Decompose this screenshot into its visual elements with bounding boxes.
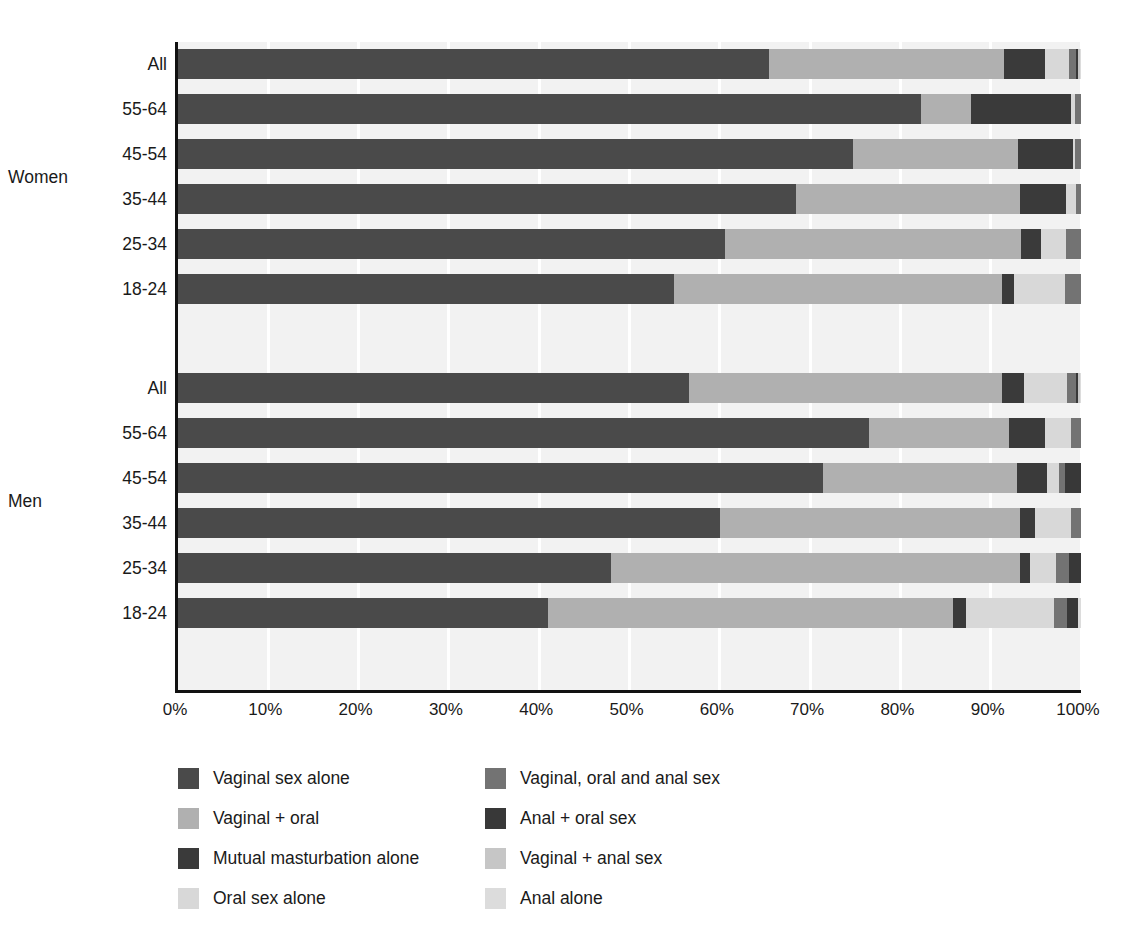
bar-segment[interactable] (548, 598, 953, 628)
x-tick-label: 20% (339, 700, 373, 720)
legend-item[interactable]: Vaginal + oral (178, 798, 508, 838)
bar-segment[interactable] (689, 373, 1002, 403)
bar-row[interactable] (178, 598, 1081, 628)
bar-segment[interactable] (1041, 229, 1065, 259)
bar-segment[interactable] (1035, 508, 1071, 538)
bar-segment[interactable] (1065, 463, 1081, 493)
bar-segment[interactable] (178, 139, 853, 169)
bar-row[interactable] (178, 49, 1081, 79)
bar-segment[interactable] (853, 139, 1017, 169)
bar-segment[interactable] (1067, 598, 1079, 628)
category-tick-label: All (17, 373, 167, 403)
bar-segment[interactable] (1076, 184, 1081, 214)
bar-segment[interactable] (178, 598, 548, 628)
bar-segment[interactable] (720, 508, 1020, 538)
bar-segment[interactable] (1018, 139, 1073, 169)
bar-segment[interactable] (966, 598, 1054, 628)
bar-segment[interactable] (1047, 463, 1060, 493)
bar-segment[interactable] (1002, 373, 1024, 403)
bar-segment[interactable] (1024, 373, 1066, 403)
bar-segment[interactable] (1017, 463, 1047, 493)
legend-item[interactable]: Mutual masturbation alone (178, 838, 508, 878)
bar-segment[interactable] (1066, 229, 1081, 259)
bar-segment[interactable] (1045, 418, 1071, 448)
bar-segment[interactable] (1004, 49, 1045, 79)
legend-label: Mutual masturbation alone (213, 848, 419, 869)
bar-segment[interactable] (178, 463, 823, 493)
bar-segment[interactable] (178, 553, 611, 583)
legend-item[interactable]: Vaginal, oral and anal sex (485, 758, 885, 798)
bar-segment[interactable] (611, 553, 1020, 583)
bar-segment[interactable] (1078, 598, 1081, 628)
bar-segment[interactable] (1080, 373, 1081, 403)
bar-row[interactable] (178, 508, 1081, 538)
bar-row[interactable] (178, 373, 1081, 403)
bar-segment[interactable] (1020, 184, 1065, 214)
bar-segment[interactable] (178, 49, 769, 79)
bar-row[interactable] (178, 94, 1081, 124)
legend-item[interactable]: Anal + oral sex (485, 798, 885, 838)
x-axis-ticks: 0%10%20%30%40%50%60%70%80%90%100% (0, 700, 1143, 730)
bar-segment[interactable] (1080, 49, 1081, 79)
bar-row[interactable] (178, 418, 1081, 448)
legend-swatch-icon (178, 848, 199, 869)
legend-swatch-icon (178, 808, 199, 829)
bar-segment[interactable] (1069, 553, 1081, 583)
bar-row[interactable] (178, 463, 1081, 493)
legend-item[interactable]: Vaginal sex alone (178, 758, 508, 798)
legend-label: Vaginal sex alone (213, 768, 350, 789)
bar-segment[interactable] (178, 508, 720, 538)
bar-segment[interactable] (1065, 274, 1081, 304)
category-tick-label: 55-64 (17, 418, 167, 448)
bar-segment[interactable] (1045, 49, 1069, 79)
bar-segment[interactable] (1054, 598, 1067, 628)
category-tick-label: 18-24 (17, 274, 167, 304)
bar-segment[interactable] (823, 463, 1017, 493)
legend-item[interactable]: Oral sex alone (178, 878, 508, 918)
bar-segment[interactable] (1066, 184, 1076, 214)
legend-label: Anal alone (520, 888, 603, 909)
legend-item[interactable]: Anal alone (485, 878, 885, 918)
legend-swatch-icon (178, 888, 199, 909)
x-tick-label: 0% (163, 700, 188, 720)
bar-row[interactable] (178, 274, 1081, 304)
legend-label: Anal + oral sex (520, 808, 636, 829)
bar-segment[interactable] (1067, 373, 1076, 403)
bar-segment[interactable] (1002, 274, 1015, 304)
bar-segment[interactable] (1071, 418, 1081, 448)
bar-segment[interactable] (796, 184, 1021, 214)
bar-row[interactable] (178, 139, 1081, 169)
bar-segment[interactable] (674, 274, 1002, 304)
bar-segment[interactable] (1071, 508, 1081, 538)
bar-segment[interactable] (178, 373, 689, 403)
bar-row[interactable] (178, 553, 1081, 583)
bar-segment[interactable] (178, 94, 921, 124)
x-tick-label: 80% (880, 700, 914, 720)
bar-row[interactable] (178, 184, 1081, 214)
bar-segment[interactable] (869, 418, 1009, 448)
bar-segment[interactable] (178, 229, 725, 259)
bar-segment[interactable] (1056, 553, 1070, 583)
bar-segment[interactable] (178, 418, 869, 448)
bar-segment[interactable] (1020, 508, 1035, 538)
bar-segment[interactable] (921, 94, 971, 124)
bar-row[interactable] (178, 229, 1081, 259)
x-tick-label: 10% (248, 700, 282, 720)
bar-segment[interactable] (971, 94, 1071, 124)
bar-segment[interactable] (178, 184, 796, 214)
bar-segment[interactable] (178, 274, 674, 304)
x-tick-label: 60% (700, 700, 734, 720)
bar-segment[interactable] (953, 598, 967, 628)
bar-segment[interactable] (1009, 418, 1045, 448)
bar-segment[interactable] (769, 49, 1005, 79)
bar-segment[interactable] (1075, 94, 1081, 124)
bar-segment[interactable] (1021, 229, 1041, 259)
bar-segment[interactable] (1030, 553, 1056, 583)
bar-segment[interactable] (1020, 553, 1029, 583)
bar-segment[interactable] (1014, 274, 1065, 304)
x-tick-label: 100% (1056, 700, 1099, 720)
legend-column-left: Vaginal sex aloneVaginal + oralMutual ma… (178, 758, 508, 918)
bar-segment[interactable] (1075, 139, 1081, 169)
bar-segment[interactable] (725, 229, 1021, 259)
legend-item[interactable]: Vaginal + anal sex (485, 838, 885, 878)
